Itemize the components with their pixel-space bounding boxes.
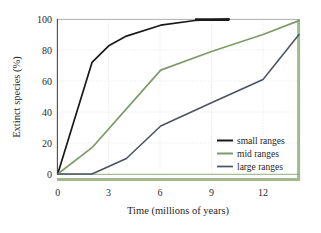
x-tick-label: 6	[158, 187, 163, 198]
x-axis-title: Time (millions of years)	[127, 205, 229, 217]
y-tick-label: 100	[37, 14, 52, 25]
y-axis-title: Extinct species (%)	[11, 56, 23, 138]
extinct-species-line-chart: 100 80 60 40 20 0 0 3 6 9 12 Time (milli…	[0, 0, 321, 233]
legend-label-large-ranges: large ranges	[237, 162, 283, 172]
chart-legend: small ranges mid ranges large ranges	[217, 136, 285, 172]
x-tick-labels: 0 3 6 9 12	[55, 187, 268, 198]
x-tick-label: 3	[106, 187, 111, 198]
y-tick-labels: 100 80 60 40 20 0	[37, 14, 52, 179]
x-tick-label: 0	[55, 187, 60, 198]
y-tick-label: 40	[42, 107, 52, 118]
y-tick-label: 80	[42, 45, 52, 56]
y-tick-label: 60	[42, 76, 52, 87]
y-tick-label: 0	[47, 169, 52, 180]
legend-label-mid-ranges: mid ranges	[237, 149, 279, 159]
legend-label-small-ranges: small ranges	[237, 136, 285, 146]
x-tick-label: 12	[258, 187, 268, 198]
x-tick-label: 9	[209, 187, 214, 198]
chart-figure: 100 80 60 40 20 0 0 3 6 9 12 Time (milli…	[0, 0, 321, 233]
y-tick-label: 20	[42, 138, 52, 149]
